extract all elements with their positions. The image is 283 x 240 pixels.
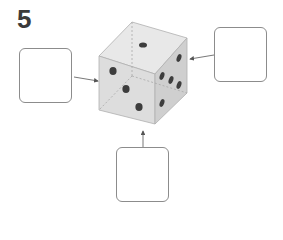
answer-box-left[interactable] [19, 48, 72, 103]
answer-box-bottom[interactable] [116, 147, 169, 202]
answer-box-right[interactable] [214, 27, 267, 82]
arrow-left-icon [74, 77, 98, 81]
pip-icon [139, 42, 147, 47]
pip-icon [135, 103, 142, 111]
pip-icon [122, 85, 129, 93]
arrow-right-icon [190, 55, 214, 59]
pip-icon [109, 67, 116, 75]
